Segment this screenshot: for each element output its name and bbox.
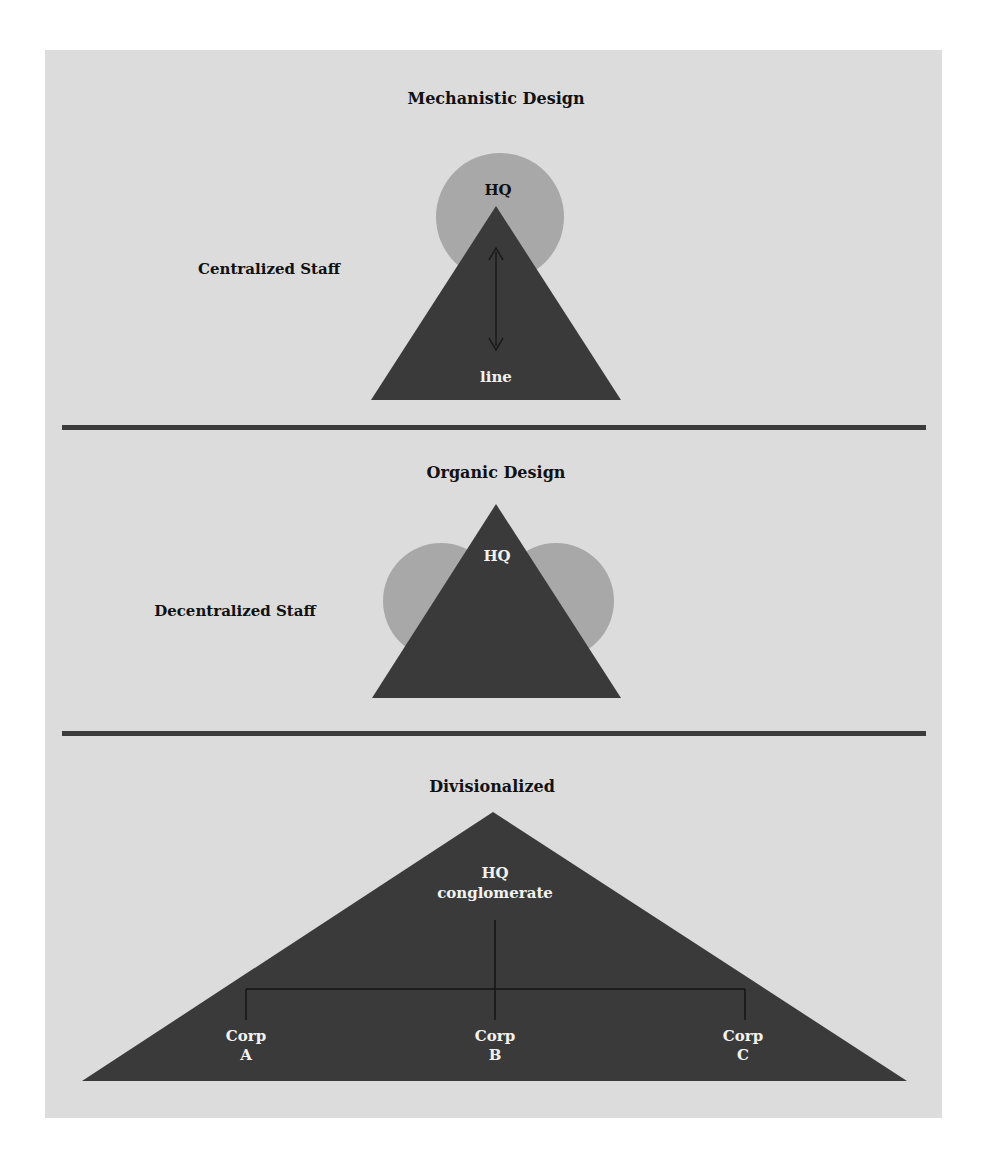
corp-c-label: Corp xyxy=(723,1027,763,1045)
section-organic: Organic Design HQ Decentralized Staff xyxy=(154,463,621,698)
corp-a-letter: A xyxy=(239,1046,252,1064)
section-divisionalized: Divisionalized HQ conglomerate Corp A Co… xyxy=(82,777,907,1081)
conglomerate-hq-label: HQ xyxy=(481,864,508,882)
mechanistic-title: Mechanistic Design xyxy=(407,89,584,108)
corp-c-letter: C xyxy=(737,1046,749,1064)
corp-b-letter: B xyxy=(489,1046,502,1064)
line-label: line xyxy=(480,368,512,386)
section-mechanistic: Mechanistic Design HQ line Centralized S… xyxy=(198,89,621,400)
mechanistic-hq-label: HQ xyxy=(484,181,511,199)
organic-hq-label: HQ xyxy=(483,547,510,565)
divider-2 xyxy=(62,731,926,736)
divisionalized-title: Divisionalized xyxy=(429,777,555,796)
organization-design-diagram: Mechanistic Design HQ line Centralized S… xyxy=(0,0,982,1152)
corp-b-label: Corp xyxy=(475,1027,515,1045)
corp-a-label: Corp xyxy=(226,1027,266,1045)
divider-1 xyxy=(62,425,926,430)
centralized-staff-label: Centralized Staff xyxy=(198,260,342,278)
conglomerate-sublabel: conglomerate xyxy=(437,884,553,902)
organic-title: Organic Design xyxy=(427,463,566,482)
decentralized-staff-label: Decentralized Staff xyxy=(154,602,317,620)
